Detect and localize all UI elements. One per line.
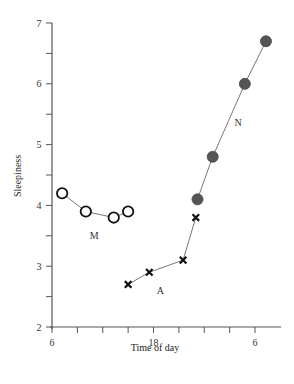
y-axis-label: Sleepiness [12, 155, 23, 197]
axes: 2345676186 [37, 18, 282, 349]
y-tick-label: 7 [37, 18, 42, 29]
series-n: N [192, 36, 272, 205]
open-circle-marker [123, 206, 133, 216]
series-m: M [57, 188, 133, 241]
cross-marker [192, 214, 199, 221]
y-tick-label: 6 [37, 78, 42, 89]
series-layer: MAN [57, 36, 272, 296]
y-tick-label: 5 [37, 139, 42, 150]
filled-circle-marker [192, 194, 203, 205]
sleepiness-chart: 2345676186 MAN Time of day Sleepiness [0, 0, 294, 384]
series-line [197, 41, 266, 199]
open-circle-marker [57, 188, 67, 198]
cross-marker [146, 269, 153, 276]
cross-marker [125, 281, 132, 288]
y-tick-label: 4 [37, 200, 42, 211]
filled-circle-marker [260, 36, 271, 47]
y-tick-label: 2 [37, 322, 42, 333]
x-tick-label: 6 [50, 337, 55, 348]
x-axis-label: Time of day [131, 342, 180, 353]
open-circle-marker [109, 212, 119, 222]
series-line [128, 218, 196, 285]
cross-marker [180, 257, 187, 264]
series-label-a: A [157, 285, 165, 296]
y-tick-label: 3 [37, 261, 42, 272]
filled-circle-marker [239, 78, 250, 89]
filled-circle-marker [207, 151, 218, 162]
open-circle-marker [81, 206, 91, 216]
series-label-m: M [90, 230, 99, 241]
series-label-n: N [234, 117, 241, 128]
x-tick-label: 6 [253, 337, 258, 348]
series-a: A [125, 214, 199, 295]
